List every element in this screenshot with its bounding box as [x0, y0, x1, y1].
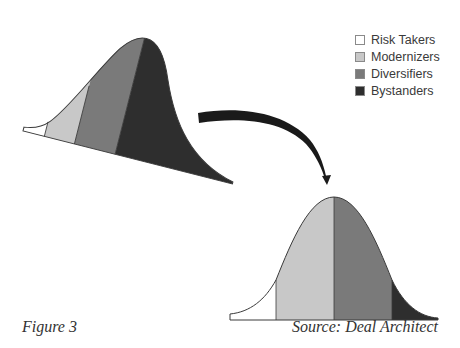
legend-swatch-icon [355, 52, 365, 62]
after-segment-modernizers [276, 190, 334, 321]
after-bell-curve [230, 190, 439, 321]
legend-item-bystanders: Bystanders [355, 82, 460, 99]
before-bell-curve [23, 5, 266, 185]
legend-item-modernizers: Modernizers [355, 48, 460, 65]
legend-swatch-icon [355, 35, 365, 45]
legend-label: Modernizers [371, 50, 440, 64]
legend-label: Risk Takers [371, 33, 435, 47]
after-segment-risk-takers [230, 190, 276, 321]
legend-item-diversifiers: Diversifiers [355, 65, 460, 82]
legend: Risk Takers Modernizers Diversifiers Bys… [355, 31, 460, 99]
after-segment-bystanders [392, 190, 439, 321]
figure-caption: Figure 3 [22, 318, 77, 336]
source-caption: Source: Deal Architect [292, 318, 438, 336]
legend-label: Diversifiers [371, 67, 433, 81]
legend-swatch-icon [355, 86, 365, 96]
after-segment-diversifiers [334, 190, 392, 321]
legend-swatch-icon [355, 69, 365, 79]
legend-label: Bystanders [371, 84, 434, 98]
legend-item-risk-takers: Risk Takers [355, 31, 460, 48]
arrowhead-icon [322, 175, 331, 185]
